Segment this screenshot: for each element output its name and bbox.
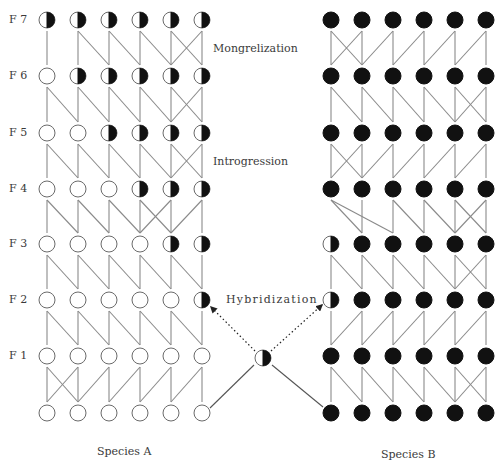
generation-label-f5: F 5: [9, 127, 27, 138]
species-a-individual-f7-3: [101, 12, 117, 28]
species-b-individual-f4-1: [323, 181, 339, 197]
species-b-inheritance-link: [455, 31, 486, 65]
species-a-inheritance-link: [171, 255, 202, 289]
species-a-inheritance-link: [109, 200, 140, 233]
species-b-inheritance-link: [362, 87, 393, 122]
species-b-individual-f3-1: [323, 236, 339, 252]
species-a-inheritance-link: [109, 31, 140, 65]
generation-label-f1: F 1: [9, 350, 27, 361]
species-a-inheritance-link: [140, 144, 171, 178]
species-a-individual-f3-1: [39, 236, 55, 252]
species-b-individual-f5-1: [323, 125, 339, 141]
generation-label-f4: F 4: [9, 183, 27, 194]
species-b-individual-f7-2: [354, 12, 370, 28]
species-a-inheritance-link: [140, 367, 171, 402]
species-a-inheritance-link: [171, 200, 202, 233]
species-b-individual-p-4: [416, 405, 432, 421]
species-a-inheritance-link: [78, 31, 109, 65]
generation-label-f6: F 6: [9, 70, 27, 81]
species-b-inheritance-link: [393, 367, 424, 402]
species-b-inheritance-link: [455, 144, 486, 178]
species-a-individual-f4-4: [132, 181, 148, 197]
species-a-individual-f1-2: [70, 348, 86, 364]
species-a-individual-p-3: [101, 405, 117, 421]
species-a-individual-f6-6: [194, 68, 210, 84]
species-b-inheritance-link: [424, 31, 455, 65]
species-a-inheritance-link: [78, 367, 109, 402]
mongrelization-label: Mongrelization: [213, 43, 298, 54]
species-b-individual-f4-2: [354, 181, 370, 197]
species-a-inheritance-link: [47, 255, 78, 289]
species-b-individual-f6-6: [478, 68, 494, 84]
species-a-individual-f1-3: [101, 348, 117, 364]
individual-nodes: [39, 12, 494, 421]
species-b-individual-f3-3: [385, 236, 401, 252]
generation-label-f2: F 2: [9, 294, 27, 305]
introgression-label: Introgression: [213, 156, 288, 167]
species-a-individual-f7-2: [70, 12, 86, 28]
species-a-individual-f7-6: [194, 12, 210, 28]
species-a-individual-f6-3: [101, 68, 117, 84]
species-a-individual-f5-4: [132, 125, 148, 141]
species-a-individual-f1-6: [194, 348, 210, 364]
species-a-individual-p-4: [132, 405, 148, 421]
species-b-inheritance-link: [362, 367, 393, 402]
species-a-individual-f7-5: [163, 12, 179, 28]
species-a-individual-f5-2: [70, 125, 86, 141]
species-a-individual-f4-6: [194, 181, 210, 197]
species-b-inheritance-link: [362, 255, 393, 289]
species-a-individual-p-2: [70, 405, 86, 421]
species-a-inheritance-link: [78, 255, 109, 289]
species-b-individual-f7-3: [385, 12, 401, 28]
species-b-individual-f6-4: [416, 68, 432, 84]
species-b-individual-f3-6: [478, 236, 494, 252]
species-a-individual-f2-3: [101, 292, 117, 308]
species-b-inheritance-link: [424, 255, 455, 289]
species-a-individual-f3-4: [132, 236, 148, 252]
species-b-individual-f6-2: [354, 68, 370, 84]
species-a-individual-f5-1: [39, 125, 55, 141]
species-a-individual-f6-1: [39, 68, 55, 84]
species-a-inheritance-link: [140, 255, 171, 289]
species-a-individual-f1-5: [163, 348, 179, 364]
backcross-arrow-to-species-b: [271, 305, 322, 351]
species-a-individual-f3-6: [194, 236, 210, 252]
species-a-individual-f1-1: [39, 348, 55, 364]
species-b-inheritance-link: [362, 31, 393, 65]
species-b-inheritance-link: [424, 87, 455, 122]
species-b-individual-f4-4: [416, 181, 432, 197]
species-b-individual-f1-3: [385, 348, 401, 364]
species-a-individual-p-1: [39, 405, 55, 421]
species-b-individual-p-3: [385, 405, 401, 421]
species-b-individual-p-6: [478, 405, 494, 421]
species-a-inheritance-link: [109, 255, 140, 289]
species-a-individual-f5-6: [194, 125, 210, 141]
species-b-individual-f2-2: [354, 292, 370, 308]
species-a-inheritance-link: [171, 367, 202, 402]
species-a-inheritance-link: [47, 87, 78, 122]
parent-a-to-hybrid-link: [210, 365, 254, 408]
species-b-inheritance-link: [424, 367, 455, 402]
species-b-individual-f1-6: [478, 348, 494, 364]
species-a-individual-f2-1: [39, 292, 55, 308]
species-b-individual-p-5: [447, 405, 463, 421]
species-a-individual-f2-4: [132, 292, 148, 308]
species-a-inheritance-link: [140, 31, 171, 65]
species-b-individual-f1-5: [447, 348, 463, 364]
species-a-individual-f3-3: [101, 236, 117, 252]
species-b-individual-f7-4: [416, 12, 432, 28]
species-a-inheritance-link: [47, 200, 78, 233]
species-b-inheritance-link: [393, 31, 424, 65]
species-b-individual-f1-4: [416, 348, 432, 364]
species-b-inheritance-link: [424, 144, 455, 178]
species-a-individual-f7-1: [39, 12, 55, 28]
species-b-inheritance-link: [424, 311, 455, 345]
species-a-inheritance-link: [78, 200, 109, 233]
species-a-inheritance-link: [109, 311, 140, 345]
species-b-inheritance-link: [393, 255, 424, 289]
species-a-inheritance-link: [47, 144, 78, 178]
species-b-individual-f7-6: [478, 12, 494, 28]
species-a-individual-f3-2: [70, 236, 86, 252]
species-b-inheritance-link: [331, 367, 362, 402]
